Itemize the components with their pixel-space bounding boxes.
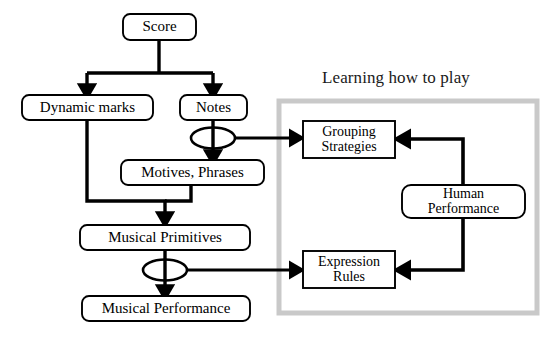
node-dynamic-marks-shape[interactable] [22, 95, 153, 120]
edge-human-to-grouping [402, 139, 463, 185]
node-human-performance-shape[interactable] [402, 185, 525, 218]
node-musical-primitives-shape[interactable] [80, 225, 250, 250]
diagram-graphics [0, 0, 556, 338]
node-notes-shape[interactable] [180, 95, 247, 120]
learning-group-title: Learning how to play [322, 68, 470, 88]
edge-motives-to-primitives [165, 184, 191, 201]
node-score-shape[interactable] [123, 14, 196, 40]
edge-human-to-expression [402, 218, 463, 270]
node-expression-rules-shape[interactable] [303, 251, 395, 288]
node-grouping-strategies-shape[interactable] [303, 121, 395, 158]
node-motives-phrases-shape[interactable] [121, 160, 264, 185]
diagram-canvas: Learning how to play Score Dynamic marks… [0, 0, 556, 338]
node-musical-performance-shape[interactable] [82, 296, 250, 321]
